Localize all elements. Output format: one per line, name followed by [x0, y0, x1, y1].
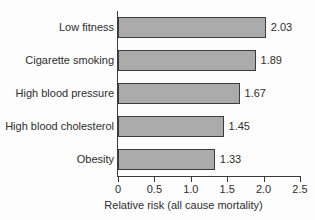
- x-axis-title-text: Relative risk (all cause mortality): [104, 199, 262, 211]
- axis-tick: [264, 177, 265, 182]
- bar-row: [118, 143, 300, 176]
- axis-tick-label: 1.5: [220, 184, 235, 195]
- x-axis-title: Relative risk (all cause mortality): [0, 199, 315, 211]
- axis-tick: [300, 177, 301, 182]
- category-label: High blood cholesterol: [0, 121, 114, 132]
- axis-tick-label: 0.5: [147, 184, 162, 195]
- bar: [118, 149, 215, 170]
- axis-tick-label: 2.5: [292, 184, 307, 195]
- bar-chart: 00.51.01.52.02.5 Relative risk (all caus…: [0, 0, 315, 220]
- axis-tick: [227, 177, 228, 182]
- bar-value-label: 2.03: [271, 22, 292, 33]
- value-axis-line: [117, 176, 301, 177]
- bar: [118, 116, 224, 137]
- axis-tick: [154, 177, 155, 182]
- bar-value-label: 1.33: [220, 154, 241, 165]
- category-label: Cigarette smoking: [0, 55, 114, 66]
- bar-value-label: 1.45: [229, 121, 250, 132]
- bar: [118, 50, 256, 71]
- category-label: Low fitness: [0, 22, 114, 33]
- bar-value-label: 1.89: [261, 55, 282, 66]
- axis-tick: [118, 177, 119, 182]
- axis-tick-label: 1.0: [183, 184, 198, 195]
- bar: [118, 83, 240, 104]
- category-label: High blood pressure: [0, 88, 114, 99]
- bar-row: [118, 77, 300, 110]
- axis-tick: [191, 177, 192, 182]
- axis-tick-label: 2.0: [256, 184, 271, 195]
- bar-value-label: 1.67: [245, 88, 266, 99]
- bar: [118, 17, 266, 38]
- bar-row: [118, 110, 300, 143]
- category-label: Obesity: [0, 154, 114, 165]
- axis-tick-label: 0: [115, 184, 121, 195]
